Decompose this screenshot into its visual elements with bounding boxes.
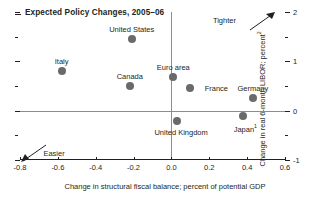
y-tick-right <box>285 160 290 161</box>
y-tick-label: 1 <box>293 57 297 66</box>
data-point-euro-area <box>169 73 177 81</box>
x-tick-label: 0.6 <box>280 163 290 172</box>
data-point-france <box>186 84 194 92</box>
arrow-tighter-icon <box>248 10 282 32</box>
data-point-united-states <box>128 35 136 43</box>
data-point-label-italy: Italy <box>55 57 69 66</box>
y-axis-title-text: Change in real 6-month LIBOR; percent <box>258 34 267 166</box>
y-tick-label: 0 <box>293 106 297 115</box>
x-tick-label: -0.2 <box>127 163 140 172</box>
x-tick <box>209 157 210 160</box>
data-point-label-japan: Japan1 <box>234 123 257 134</box>
arrow-easier-icon <box>18 143 52 165</box>
data-point-label-united-kingdom: United Kingdom <box>154 128 207 137</box>
data-point-label-canada: Canada <box>117 72 143 81</box>
y-tick-left <box>15 86 18 87</box>
y-tick-left <box>15 135 18 136</box>
y-tick-left <box>15 37 18 38</box>
data-point-united-kingdom <box>173 117 181 125</box>
x-tick-label: 0.4 <box>242 163 252 172</box>
data-point-japan <box>239 112 247 120</box>
chart-figure: Expected Policy Changes, 2005–06 United … <box>0 0 330 198</box>
x-tick <box>171 157 172 160</box>
x-tick-label: -0.4 <box>89 163 102 172</box>
plot-area: United StatesItalyCanadaEuro areaFranceG… <box>20 12 285 160</box>
y-tick-label: 2 <box>293 8 297 17</box>
y-tick-right <box>285 111 290 112</box>
x-tick <box>134 157 135 160</box>
zero-vertical-axis <box>171 12 172 160</box>
data-point-label-euro-area: Euro area <box>157 63 190 72</box>
y-tick-right <box>285 37 288 38</box>
y-tick-right <box>285 61 290 62</box>
data-point-label-united-states: United States <box>109 25 154 34</box>
data-point-italy <box>58 67 66 75</box>
x-axis-title: Change in structural fiscal balance; per… <box>0 182 330 191</box>
y-tick-left <box>15 12 20 13</box>
y-tick-left <box>15 111 20 112</box>
data-point-label-france: France <box>205 84 228 93</box>
x-tick <box>247 157 248 160</box>
x-tick <box>96 157 97 160</box>
y-tick-right <box>285 86 288 87</box>
x-tick-label: -0.6 <box>51 163 64 172</box>
x-axis-line <box>20 159 285 160</box>
x-tick-label: -0.8 <box>14 163 27 172</box>
y-tick-left <box>15 61 20 62</box>
y-tick-label: -1 <box>293 156 300 165</box>
y-axis-title: Change in real 6-month LIBOR; percent2 <box>256 31 267 166</box>
annotation-tighter: Tighter <box>213 16 236 25</box>
y-axis-title-superscript: 2 <box>256 31 262 34</box>
y-tick-right <box>285 135 288 136</box>
y-tick-right <box>285 12 290 13</box>
data-point-canada <box>126 82 134 90</box>
x-tick-label: 0.2 <box>204 163 214 172</box>
x-tick-label: 0.0 <box>166 163 176 172</box>
